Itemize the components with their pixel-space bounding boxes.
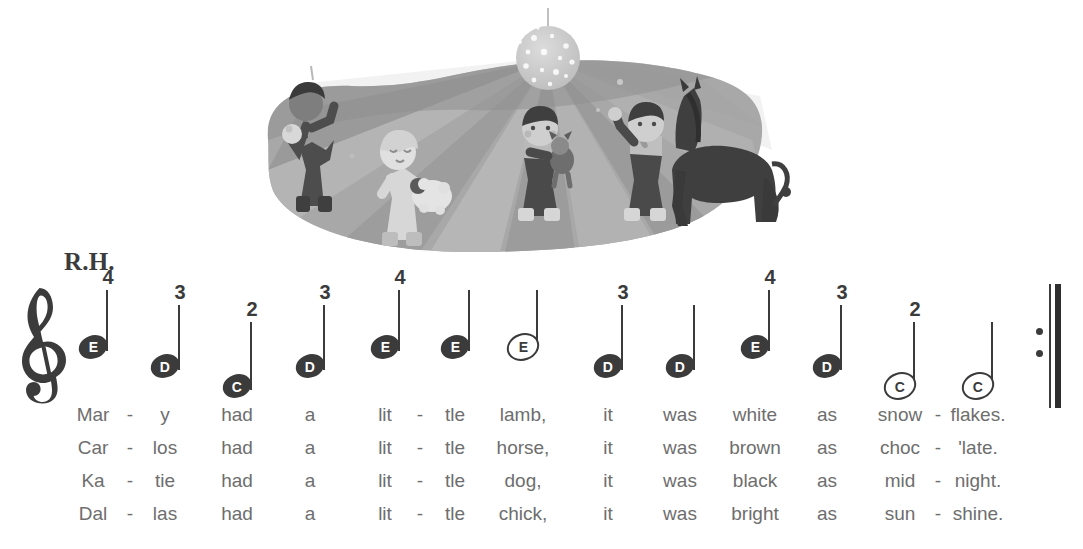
fingering-number: 2	[246, 298, 257, 321]
lyric-syllable: night.	[955, 470, 1001, 492]
syllable-hyphen: -	[127, 503, 133, 525]
syllable-hyphen: -	[417, 503, 423, 525]
lyrics-block: Mar-yhadalit-tlelamb,itwaswhiteassnow-fl…	[0, 404, 1083, 536]
lyric-syllable: tie	[155, 470, 175, 492]
lyric-syllable: a	[305, 404, 316, 426]
lyric-syllable: y	[160, 404, 170, 426]
lyric-syllable: Mar	[77, 404, 110, 426]
lyric-syllable: a	[305, 470, 316, 492]
treble-clef-icon	[10, 284, 66, 406]
lyric-syllable: white	[733, 404, 777, 426]
lyric-verse-4: Dal-lashadalit-tlechick,itwasbrightassun…	[0, 503, 1083, 536]
lyric-syllable: mid	[885, 470, 916, 492]
syllable-hyphen: -	[417, 437, 423, 459]
lyric-syllable: lit	[378, 437, 392, 459]
lyric-syllable: lit	[378, 470, 392, 492]
lyric-syllable: a	[305, 437, 316, 459]
note-letter: C	[973, 379, 983, 393]
lyric-syllable: as	[817, 470, 837, 492]
note-letter: E	[750, 340, 759, 354]
lyric-syllable: had	[221, 437, 253, 459]
lyric-syllable: it	[603, 503, 613, 525]
lyric-syllable: as	[817, 503, 837, 525]
syllable-hyphen: -	[127, 470, 133, 492]
repeat-dot-lower	[1036, 350, 1043, 357]
lyric-syllable: was	[663, 404, 697, 426]
syllable-hyphen: -	[935, 503, 941, 525]
lyric-syllable: brown	[729, 437, 781, 459]
note-letter: D	[822, 359, 832, 373]
syllable-hyphen: -	[417, 404, 423, 426]
lyric-syllable: Dal	[79, 503, 108, 525]
syllable-hyphen: -	[935, 470, 941, 492]
disco-ball-icon	[516, 8, 580, 90]
lyric-syllable: lamb,	[500, 404, 546, 426]
note-letter: D	[603, 359, 613, 373]
lyric-syllable: it	[603, 437, 613, 459]
note-letter: E	[518, 340, 527, 354]
syllable-hyphen: -	[127, 404, 133, 426]
lyric-syllable: flakes.	[951, 404, 1006, 426]
note-letter: D	[305, 359, 315, 373]
fingering-number: 3	[319, 281, 330, 304]
lyric-verse-2: Car-loshadalit-tlehorse,itwasbrownaschoc…	[0, 437, 1083, 470]
barline-thick	[1055, 284, 1061, 408]
lyric-syllable: had	[221, 503, 253, 525]
illustration	[0, 0, 1083, 262]
lyric-syllable: was	[663, 437, 697, 459]
lyric-syllable: Car	[78, 437, 109, 459]
lyric-syllable: lit	[378, 404, 392, 426]
lyric-syllable: shine.	[953, 503, 1004, 525]
lyric-syllable: chick,	[499, 503, 548, 525]
lyric-syllable: had	[221, 404, 253, 426]
lyric-syllable: as	[817, 404, 837, 426]
lyric-syllable: choc	[880, 437, 920, 459]
syllable-hyphen: -	[127, 437, 133, 459]
lyric-syllable: snow	[878, 404, 922, 426]
lyric-syllable: tle	[445, 437, 465, 459]
note-letter: C	[232, 379, 242, 393]
note-letter: D	[675, 359, 685, 373]
fingering-number: 2	[909, 298, 920, 321]
lyric-verse-3: Ka-tiehadalit-tledog,itwasblackasmid-nig…	[0, 470, 1083, 503]
lyric-syllable: tle	[445, 470, 465, 492]
note-letter: E	[88, 340, 97, 354]
fingering-number: 4	[102, 266, 113, 289]
lyric-syllable: a	[305, 503, 316, 525]
fingering-number: 3	[836, 281, 847, 304]
lyric-syllable: was	[663, 470, 697, 492]
lyric-syllable: dog,	[505, 470, 542, 492]
lyric-syllable: black	[733, 470, 777, 492]
fingering-number: 3	[617, 281, 628, 304]
lyric-syllable: los	[153, 437, 177, 459]
syllable-hyphen: -	[935, 404, 941, 426]
lyric-syllable: 'late.	[958, 437, 998, 459]
fingering-number: 4	[394, 266, 405, 289]
fingering-number: 3	[174, 281, 185, 304]
lyric-syllable: tle	[445, 503, 465, 525]
lyric-verse-1: Mar-yhadalit-tlelamb,itwaswhiteassnow-fl…	[0, 404, 1083, 437]
lyric-syllable: tle	[445, 404, 465, 426]
lyric-syllable: bright	[731, 503, 779, 525]
note-letter: E	[450, 340, 459, 354]
note-letter: E	[380, 340, 389, 354]
lyric-syllable: had	[221, 470, 253, 492]
illustration-svg	[0, 0, 1083, 262]
repeat-dot-upper	[1036, 328, 1043, 335]
lyric-syllable: it	[603, 470, 613, 492]
note-letter: D	[160, 359, 170, 373]
lyric-syllable: las	[153, 503, 177, 525]
music-system: R.H. 4E3D2C3D4EEE3DD4E3D2CC	[0, 248, 1083, 418]
lyric-syllable: it	[603, 404, 613, 426]
lyric-syllable: horse,	[497, 437, 550, 459]
lyric-syllable: as	[817, 437, 837, 459]
syllable-hyphen: -	[935, 437, 941, 459]
lyric-syllable: lit	[378, 503, 392, 525]
fingering-number: 4	[764, 266, 775, 289]
note-letter: C	[895, 379, 905, 393]
barline-thin	[1049, 284, 1051, 408]
syllable-hyphen: -	[417, 470, 423, 492]
lyric-syllable: was	[663, 503, 697, 525]
lyric-syllable: sun	[885, 503, 916, 525]
lyric-syllable: Ka	[81, 470, 104, 492]
